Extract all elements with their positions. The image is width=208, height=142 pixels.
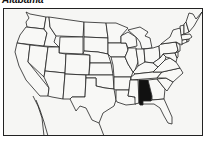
rio-grande-line <box>99 123 104 136</box>
us-map <box>0 0 208 142</box>
state-oregon <box>17 27 47 46</box>
state-iowa <box>108 43 128 57</box>
state-colorado <box>65 54 90 75</box>
state-massachusetts <box>181 34 192 40</box>
state-arkansas <box>114 77 131 90</box>
state-florida <box>143 99 172 124</box>
state-vermont <box>180 25 184 35</box>
state-kansas <box>89 63 113 75</box>
state-new-mexico <box>63 74 86 99</box>
state-washington <box>26 12 46 29</box>
state-wyoming <box>59 37 83 54</box>
state-montana <box>49 17 84 37</box>
state-north-dakota <box>84 22 108 38</box>
state-new-york <box>161 28 183 45</box>
state-maine <box>186 12 202 32</box>
